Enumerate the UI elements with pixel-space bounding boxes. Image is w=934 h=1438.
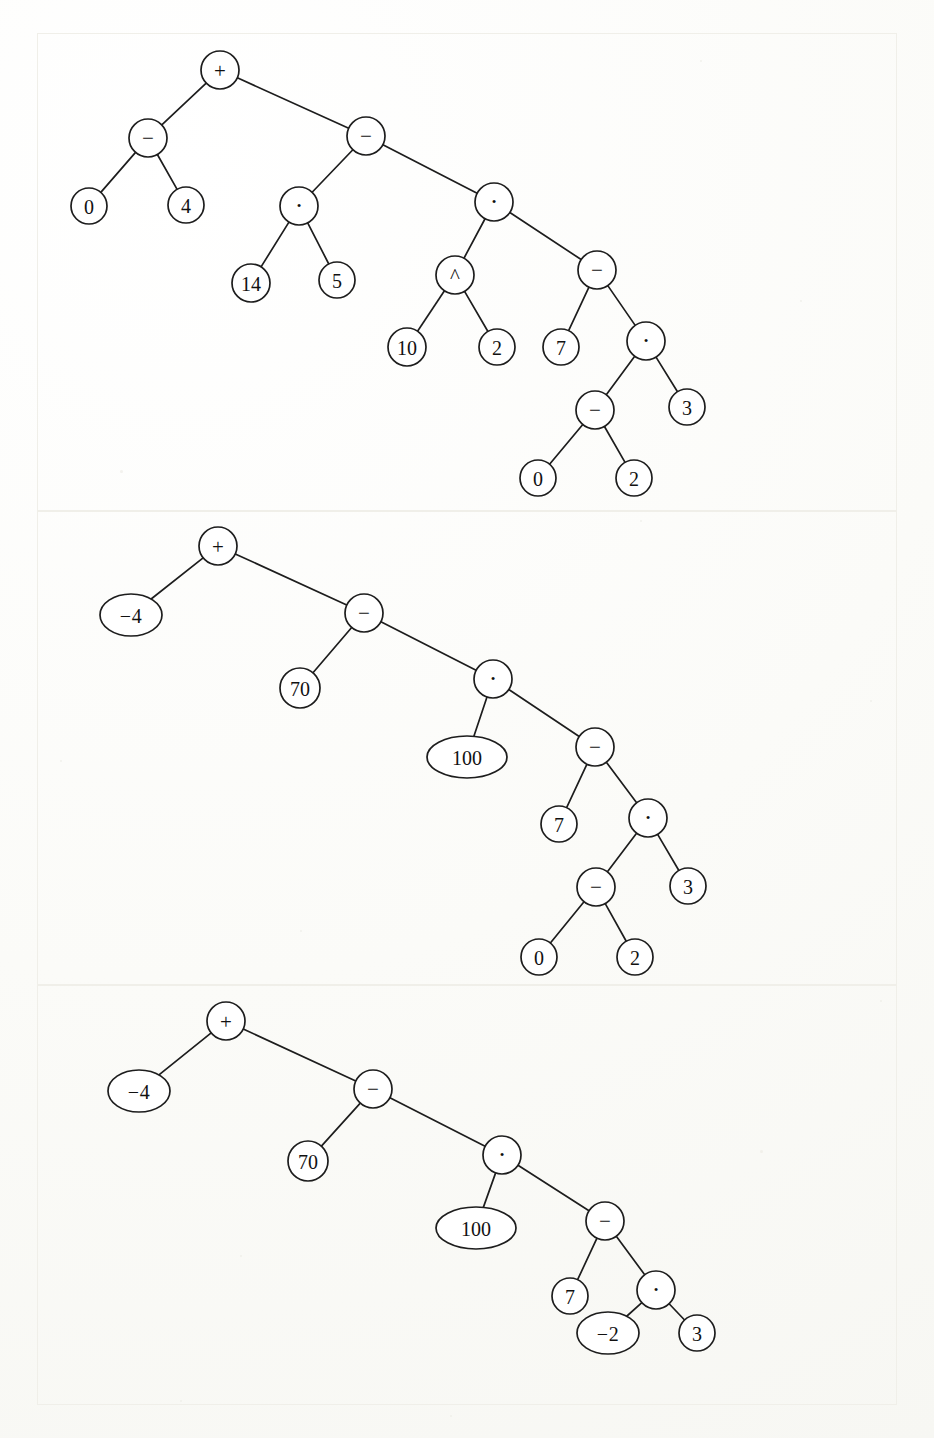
tree-node-minus: − (576, 728, 614, 766)
tree-edge (157, 155, 177, 190)
tree-2: +−4−70·100−7·−302 (100, 527, 706, 975)
tree-node-minus4: −4 (100, 594, 162, 636)
node-label: 0 (84, 196, 94, 218)
node-label: − (367, 1077, 379, 1101)
node-label: 3 (683, 876, 693, 898)
tree-node-plus: + (207, 1002, 245, 1040)
tree-edge (607, 833, 636, 872)
tree-edge (312, 150, 353, 193)
tree-edge (243, 1029, 356, 1081)
node-label: 70 (290, 678, 310, 700)
tree-node-14: 14 (232, 264, 270, 302)
tree-edge (418, 291, 445, 331)
tree-edge (656, 357, 677, 392)
tree-edge (550, 902, 584, 943)
tree-node-dot: · (474, 660, 512, 698)
node-label: − (591, 258, 603, 282)
paper-speck (300, 930, 302, 932)
node-label: 4 (181, 195, 191, 217)
node-label: 3 (692, 1323, 702, 1345)
paper-speck (700, 60, 702, 62)
tree-edge (235, 554, 346, 605)
paper-speck (870, 700, 872, 702)
node-label: 2 (492, 337, 502, 359)
tree-edge (510, 212, 581, 259)
tree-edge (616, 1236, 644, 1274)
tree-node-3: 3 (670, 868, 706, 904)
tree-node-plus: + (199, 527, 237, 565)
node-label: 10 (397, 337, 417, 359)
node-label: 100 (461, 1218, 491, 1240)
node-label: − (589, 735, 601, 759)
node-label: · (490, 187, 499, 216)
tree-edge (261, 222, 289, 267)
tree-node-70: 70 (288, 1141, 328, 1181)
tree-node-4: 4 (168, 187, 204, 223)
tree-node-100: 100 (436, 1207, 516, 1249)
tree-edge (658, 834, 679, 870)
tree-node-minus: − (576, 391, 614, 429)
tree-3: +−4−70·100−7·−23 (108, 1002, 715, 1354)
tree-node-minus: − (354, 1070, 392, 1108)
tree-node-0: 0 (520, 460, 556, 496)
node-label: · (652, 1275, 661, 1304)
tree-edge (578, 1238, 597, 1279)
node-label: ^ (450, 264, 460, 288)
tree-node-3: 3 (669, 389, 705, 425)
tree-node-7: 7 (543, 329, 579, 365)
tree-edge (474, 697, 487, 736)
tree-edge (604, 426, 625, 462)
tree-node-100: 100 (427, 736, 507, 778)
node-label: 7 (556, 337, 566, 359)
paper-speck (60, 760, 62, 762)
node-label: · (642, 326, 651, 355)
tree-edge (606, 356, 634, 394)
tree-edge (159, 1033, 211, 1075)
tree-edge (627, 1303, 642, 1317)
node-label: 7 (565, 1286, 575, 1308)
node-label: 2 (629, 468, 639, 490)
tree-edge (381, 622, 476, 671)
tree-edge (567, 764, 587, 807)
tree-node-minus: − (347, 117, 385, 155)
tree-edge (518, 1165, 589, 1210)
node-label: · (489, 664, 498, 693)
tree-edge (383, 145, 477, 194)
tree-edge (605, 904, 626, 942)
tree-edge (608, 286, 635, 326)
paper-speck (450, 1415, 452, 1417)
tree-edge (237, 78, 348, 128)
expression-tree-diagram: +−−04··145^−1027·−302+−4−70·100−7·−302+−… (0, 0, 934, 1438)
node-label: − (142, 126, 154, 150)
paper-speck (640, 520, 642, 522)
tree-edge (483, 1173, 495, 1207)
node-label: − (358, 601, 370, 625)
paper-speck (800, 300, 802, 302)
node-label: 0 (534, 947, 544, 969)
node-label: + (214, 59, 226, 83)
tree-node-dot: · (637, 1271, 675, 1309)
tree-node-3: 3 (679, 1315, 715, 1351)
tree-edge (390, 1098, 485, 1147)
tree-edge (313, 627, 352, 672)
tree-node-0: 0 (521, 939, 557, 975)
node-label: 5 (332, 270, 342, 292)
node-label: − (360, 124, 372, 148)
tree-edge (550, 425, 583, 465)
node-label: − (590, 875, 602, 899)
node-label: · (498, 1140, 507, 1169)
node-label: 14 (241, 273, 261, 295)
tree-node-dot: · (475, 183, 513, 221)
tree-node-minus: − (577, 868, 615, 906)
node-label: −4 (128, 1081, 150, 1103)
node-label: 70 (298, 1151, 318, 1173)
tree-node-2: 2 (479, 329, 515, 365)
tree-node-10: 10 (388, 328, 426, 366)
tree-node-minus4: −4 (108, 1070, 170, 1112)
tree-edge (669, 1304, 684, 1320)
paper-speck (880, 1000, 882, 1002)
tree-node-70: 70 (280, 668, 320, 708)
node-label: · (295, 191, 304, 220)
tree-node-minus: − (345, 594, 383, 632)
node-label: + (220, 1010, 232, 1034)
